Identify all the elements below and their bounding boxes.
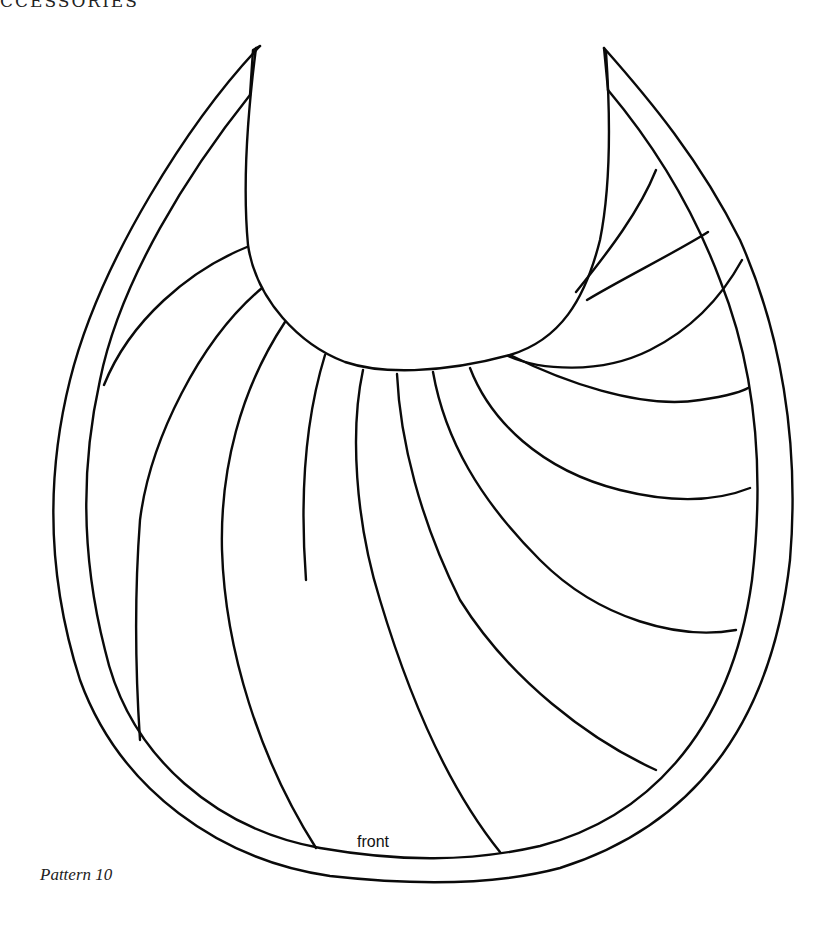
inner-outline (86, 90, 757, 858)
bib-pattern-drawing (0, 0, 828, 941)
strip-11 (510, 355, 748, 402)
strip-10 (576, 170, 656, 292)
strip-2 (136, 288, 262, 740)
strip-3 (222, 322, 316, 848)
strip-7 (433, 372, 736, 632)
strip-8 (470, 368, 750, 499)
neck-curve (246, 48, 610, 370)
strip-5 (356, 370, 500, 852)
piece-label: front (357, 833, 389, 851)
strip-9 (508, 260, 742, 368)
pattern-caption: Pattern 10 (40, 865, 112, 885)
strip-1 (104, 247, 247, 385)
strip-4 (304, 355, 325, 580)
strip-6 (397, 374, 656, 770)
strip-12 (587, 232, 708, 300)
